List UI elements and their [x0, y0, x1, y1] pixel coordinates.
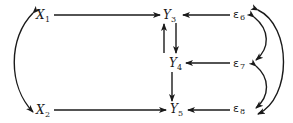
svg-text:1: 1: [45, 15, 50, 24]
svg-text:X: X: [35, 8, 45, 22]
svg-text:ε: ε: [233, 8, 239, 21]
edge-e7-e8-correlation: [256, 66, 267, 108]
node-e7: ε 7: [233, 57, 245, 71]
edge-x1-x2-correlation: [14, 13, 33, 112]
edge-e6-e7-correlation: [254, 17, 266, 60]
svg-text:X: X: [35, 103, 45, 117]
svg-text:2: 2: [45, 110, 50, 119]
node-e6: ε 6: [233, 8, 245, 22]
node-x1: X 1: [35, 8, 50, 24]
svg-text:3: 3: [171, 15, 176, 24]
svg-text:ε: ε: [233, 102, 239, 115]
path-diagram: X 1 X 2 Y 3 Y 4 Y 5 ε 6 ε 7 ε 8: [0, 0, 293, 123]
svg-text:8: 8: [240, 107, 245, 116]
svg-text:6: 6: [240, 13, 245, 22]
svg-text:ε: ε: [233, 57, 239, 70]
node-e8: ε 8: [233, 102, 245, 116]
node-y3: Y 3: [163, 8, 176, 24]
svg-text:5: 5: [178, 109, 183, 118]
svg-text:7: 7: [240, 62, 245, 71]
node-y5: Y 5: [170, 102, 183, 118]
svg-text:4: 4: [177, 63, 182, 72]
node-x2: X 2: [35, 103, 50, 119]
node-y4: Y 4: [169, 56, 182, 72]
